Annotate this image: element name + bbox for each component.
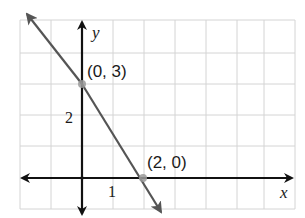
grid <box>20 20 295 209</box>
point-x-intercept <box>139 174 147 182</box>
graphed-line <box>82 84 161 212</box>
point-label-y-intercept: (0, 3) <box>87 62 127 81</box>
point-y-intercept <box>78 80 86 88</box>
tick-label-y-2: 2 <box>65 109 73 126</box>
x-axis-label: x <box>279 183 288 202</box>
graphed-line <box>27 14 82 84</box>
point-label-x-intercept: (2, 0) <box>147 153 187 172</box>
coordinate-graph: y x 2 1 (0, 3) (2, 0) <box>0 0 305 218</box>
tick-label-x-1: 1 <box>108 183 116 200</box>
y-axis-label: y <box>90 23 100 42</box>
